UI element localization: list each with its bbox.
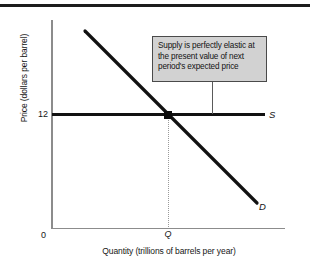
callout-line-2: the present value of next	[158, 52, 261, 63]
callout-line-3: period's expected price	[158, 62, 261, 73]
figure-container: Price (dollars per barrel) Quantity (tri…	[0, 0, 310, 270]
callout-leader-line	[212, 82, 213, 114]
equilibrium-point-marker	[164, 111, 172, 119]
callout-line-1: Supply is perfectly elastic at	[158, 41, 261, 52]
supply-curve-label: S	[269, 109, 275, 120]
equilibrium-dropline	[168, 117, 169, 227]
demand-curve-label: D	[259, 201, 266, 212]
supply-callout-box: Supply is perfectly elastic at the prese…	[152, 36, 267, 82]
plot-area: Price (dollars per barrel) Quantity (tri…	[0, 0, 310, 270]
